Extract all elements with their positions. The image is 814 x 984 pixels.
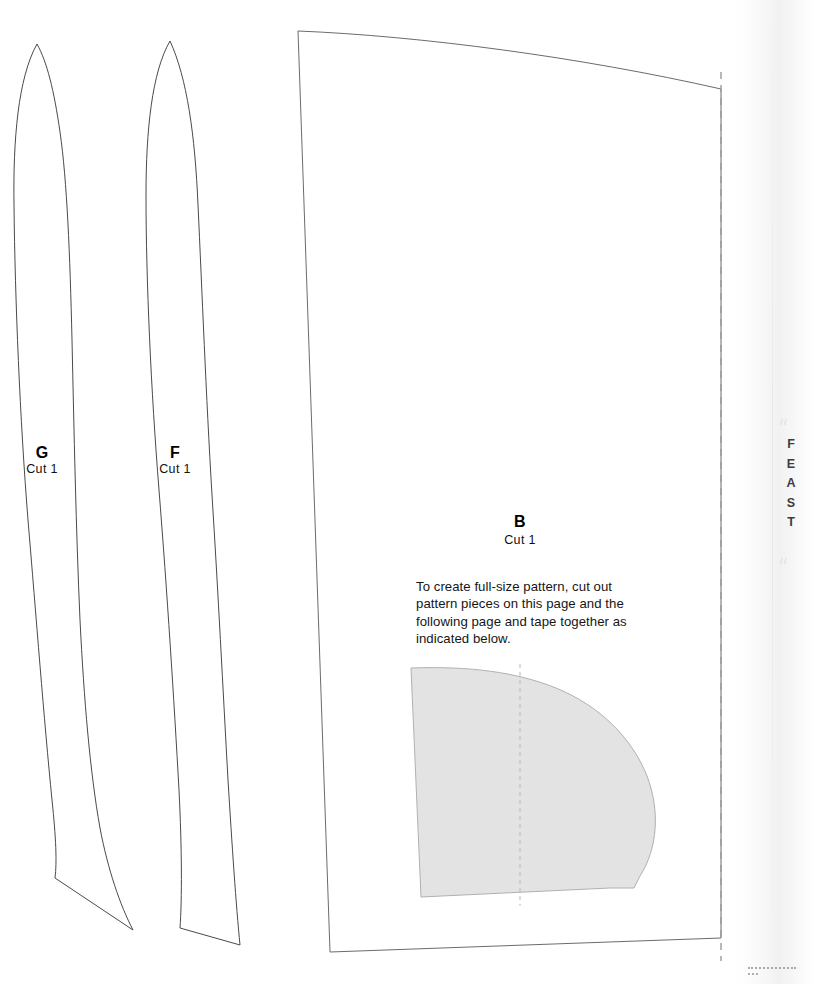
pattern-piece-g-outline (14, 44, 133, 930)
book-edge-title: FEAST (784, 437, 798, 535)
corner-dotted-rule-secondary (748, 973, 758, 978)
pattern-sheet-page: G Cut 1 F Cut 1 B Cut 1 To create full-s… (0, 0, 814, 984)
piece-label-cut-g: Cut 1 (14, 462, 70, 476)
page-gutter-seam (772, 0, 773, 984)
piece-label-cut-b: Cut 1 (492, 533, 548, 547)
piece-label-cut-f: Cut 1 (147, 462, 203, 476)
piece-label-letter-g: G (22, 444, 62, 462)
edge-ornament-top: (( (780, 418, 794, 425)
pattern-piece-f-outline (146, 41, 240, 945)
edge-ornament-bottom: (( (780, 557, 794, 564)
page-gutter-shadow (730, 0, 814, 984)
piece-label-letter-f: F (155, 444, 195, 462)
pattern-instructions-text: To create full-size pattern, cut out pat… (416, 578, 648, 648)
piece-label-letter-b: B (500, 513, 540, 531)
pattern-artwork (0, 0, 814, 984)
